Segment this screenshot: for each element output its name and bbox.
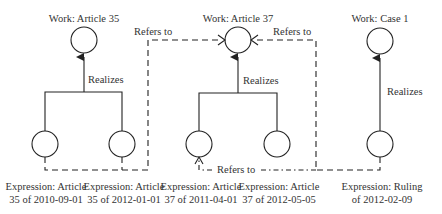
realizes-edge-article-35	[45, 57, 122, 131]
work-label-case-1: Work: Case 1	[352, 12, 409, 25]
work-label-article-35: Work: Article 35	[49, 12, 119, 25]
expression-label-line1: Expression: Article	[6, 180, 87, 193]
refers-to-label-a35: Refers to	[134, 25, 172, 38]
realizes-label-case-1: Realizes	[387, 85, 423, 98]
expression-node-a37-2012	[264, 131, 290, 157]
expression-node-ruling-2012	[367, 131, 393, 157]
work-node-article-35	[71, 27, 97, 53]
expression-label-a35-2012: Expression: Article 35 of 2012-01-01	[84, 180, 165, 206]
work-node-case-1	[367, 28, 393, 54]
expression-label-ruling-2012: Expression: Ruling of 2012-02-09	[342, 180, 423, 206]
open-arrow-icon	[218, 35, 225, 45]
expression-label-a35-2010: Expression: Article 35 of 2010-09-01	[6, 180, 87, 206]
expression-node-a35-2012	[109, 131, 135, 157]
expression-label-line2: 37 of 2011-04-01	[161, 193, 242, 206]
realizes-edge-article-37	[199, 57, 277, 131]
expression-label-line1: Expression: Article	[84, 180, 165, 193]
expression-label-line1: Expression: Article	[239, 180, 320, 193]
expression-node-a37-2011	[186, 131, 212, 157]
refers-to-label-expression: Refers to	[215, 163, 257, 176]
expression-label-line2: of 2012-02-09	[342, 193, 423, 206]
expression-label-a37-2012: Expression: Article 37 of 2012-05-05	[239, 180, 320, 206]
expression-label-line1: Expression: Ruling	[342, 180, 423, 193]
open-arrow-icon	[251, 35, 258, 45]
expression-label-line2: 35 of 2010-09-01	[6, 193, 87, 206]
work-label-article-37: Work: Article 37	[203, 12, 273, 25]
refers-to-edge-case1-to-a37	[254, 40, 380, 170]
expression-label-line2: 35 of 2012-01-01	[84, 193, 165, 206]
expression-label-line2: 37 of 2012-05-05	[239, 193, 320, 206]
expression-label-line1: Expression: Article	[161, 180, 242, 193]
expression-node-a35-2010	[32, 131, 58, 157]
refers-to-label-case1: Refers to	[273, 25, 311, 38]
realizes-label-article-35: Realizes	[88, 73, 124, 86]
realizes-label-article-37: Realizes	[243, 74, 279, 87]
work-node-article-37	[225, 27, 251, 53]
expression-label-a37-2011: Expression: Article 37 of 2011-04-01	[161, 180, 242, 206]
